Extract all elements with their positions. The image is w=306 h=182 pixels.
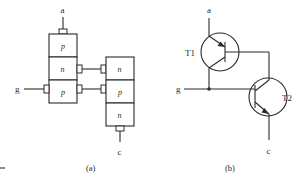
junction-dot xyxy=(207,87,211,91)
anode-label-b: a xyxy=(207,5,211,15)
left-layer-p-bottom-label: p xyxy=(60,88,65,97)
caption-a: (a) xyxy=(86,163,96,173)
gate-label-b: g xyxy=(176,84,181,94)
t2-label: T2 xyxy=(282,93,292,103)
thyristor-figure: a p n p g n p n c (a) xyxy=(0,0,306,182)
left-p-contact xyxy=(77,85,82,93)
t1-collector xyxy=(209,57,225,68)
caption-b: (b) xyxy=(225,163,235,173)
anode-contact xyxy=(59,29,67,34)
left-n-contact xyxy=(77,65,82,73)
figure-a-layer-model: a p n p g n p n c (a) xyxy=(0,5,134,173)
left-layer-p-top-label: p xyxy=(60,42,65,51)
gate-contact xyxy=(44,85,49,93)
anode-label-a: a xyxy=(61,5,65,15)
t1-label: T1 xyxy=(185,48,195,58)
figure-svg: a p n p g n p n c (a) xyxy=(0,0,306,182)
cathode-label-b: c xyxy=(267,146,271,156)
right-p-contact xyxy=(101,85,106,93)
right-n-contact xyxy=(101,65,106,73)
right-layer-p-label: p xyxy=(117,88,122,97)
figure-b-equivalent-circuit: a T1 g T2 c (b) xyxy=(176,5,292,173)
gate-label-g: g xyxy=(15,84,20,94)
cathode-label-c: c xyxy=(118,147,122,157)
left-layer-n-label: n xyxy=(61,65,65,74)
right-layer-n-top-label: n xyxy=(118,65,122,74)
cathode-contact xyxy=(116,126,124,131)
right-layer-n-bottom-label: n xyxy=(118,111,122,120)
